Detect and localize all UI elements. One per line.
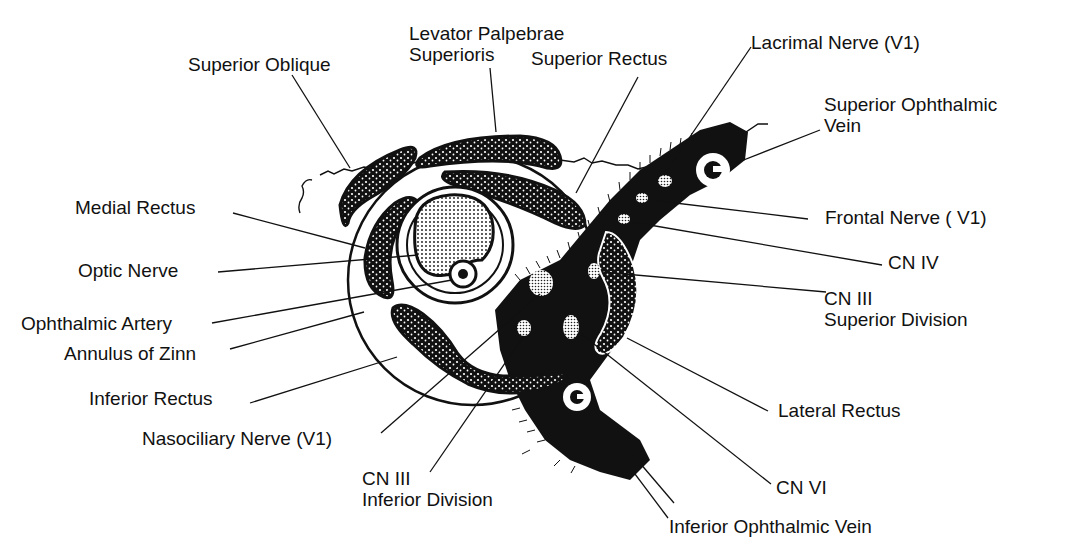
label-superior-oblique: Superior Oblique [188, 54, 331, 75]
cn-iii-inferior-division [517, 320, 531, 336]
label-text: Lacrimal Nerve (V1) [751, 32, 920, 53]
label-inferior-rectus: Inferior Rectus [89, 388, 213, 409]
label-superior-ophthalmic-vein: Superior Ophthalmic Vein [824, 94, 997, 136]
lacrimal-nerve [658, 175, 672, 187]
label-cn-vi: CN VI [776, 477, 827, 498]
label-text: Medial Rectus [75, 197, 195, 218]
label-text-line2: Vein [824, 115, 997, 136]
label-optic-nerve: Optic Nerve [78, 260, 178, 281]
nasociliary-nerve [529, 270, 553, 296]
label-text-line1: Levator Palpebrae [409, 23, 564, 44]
label-text-line2: Superior Division [824, 309, 968, 330]
superior-ophthalmic-vein [696, 153, 730, 187]
label-inferior-ophthalmic-vein: Inferior Ophthalmic Vein [669, 516, 872, 537]
label-text: Inferior Ophthalmic Vein [669, 516, 872, 537]
label-text: Lateral Rectus [778, 400, 901, 421]
label-text-line1: CN III [362, 468, 493, 489]
label-text: Nasociliary Nerve (V1) [142, 428, 332, 449]
label-text: Optic Nerve [78, 260, 178, 281]
label-text: Annulus of Zinn [64, 343, 196, 364]
ophthalmic-artery-lumen [458, 269, 468, 279]
label-cn-iii-inferior-division: CN III Inferior Division [362, 468, 493, 510]
cn-vi-nerve [563, 315, 579, 339]
frontal-nerve [636, 193, 648, 203]
label-ophthalmic-artery: Ophthalmic Artery [21, 313, 172, 334]
label-text-line2: Inferior Division [362, 489, 493, 510]
label-lacrimal-nerve: Lacrimal Nerve (V1) [751, 32, 920, 53]
label-text: Superior Rectus [531, 48, 667, 69]
label-text: Superior Oblique [188, 54, 331, 75]
label-superior-rectus: Superior Rectus [531, 48, 667, 69]
inferior-ophthalmic-vein [563, 383, 591, 411]
label-lateral-rectus: Lateral Rectus [778, 400, 901, 421]
cn-iii-superior-division [588, 263, 600, 279]
label-nasociliary-nerve: Nasociliary Nerve (V1) [142, 428, 332, 449]
label-text: Ophthalmic Artery [21, 313, 172, 334]
label-frontal-nerve: Frontal Nerve ( V1) [825, 207, 987, 228]
label-text: Frontal Nerve ( V1) [825, 207, 987, 228]
label-text-line1: Superior Ophthalmic [824, 94, 997, 115]
label-text-line1: CN III [824, 288, 968, 309]
orbital-apex-diagram: Superior Oblique Levator Palpebrae Super… [0, 0, 1067, 560]
label-text: Inferior Rectus [89, 388, 213, 409]
cn-iv-nerve [618, 214, 630, 224]
label-text: CN IV [888, 252, 939, 273]
label-text: CN VI [776, 477, 827, 498]
label-annulus-of-zinn: Annulus of Zinn [64, 343, 196, 364]
label-cn-iii-superior-division: CN III Superior Division [824, 288, 968, 330]
label-cn-iv: CN IV [888, 252, 939, 273]
label-medial-rectus: Medial Rectus [75, 197, 195, 218]
